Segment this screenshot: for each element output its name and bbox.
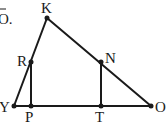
point-N [99,60,104,65]
triangle-diagram: O. K R Y P T N O [0,0,167,123]
point-T [99,104,104,109]
point-P [29,104,34,109]
label-N: N [105,50,116,66]
label-O: O [155,99,166,115]
label-Y: Y [0,99,10,115]
caption-fragment: O. [0,11,13,27]
point-R [29,60,34,65]
label-P: P [25,109,33,123]
point-O [149,104,154,109]
label-R: R [17,53,27,69]
point-Y [12,104,17,109]
label-T: T [95,109,104,123]
point-K [45,16,50,21]
label-K: K [41,0,52,16]
